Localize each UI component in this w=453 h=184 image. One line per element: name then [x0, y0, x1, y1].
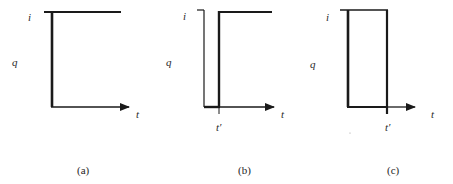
- panel-a-label-i: i: [28, 11, 31, 23]
- panel-a-label-q: q: [12, 56, 18, 68]
- panel-c-label-t-prime: t′: [385, 121, 391, 133]
- panel-b-label-t: t: [281, 108, 285, 120]
- panel-b-label-q: q: [166, 56, 172, 68]
- panel-c-caption: (c): [387, 164, 400, 177]
- panel-b-label-i: i: [183, 10, 186, 22]
- panel-a: i q t (a): [12, 11, 140, 177]
- panel-b-label-t-prime: t′: [216, 121, 222, 133]
- panel-b-caption: (b): [238, 164, 251, 177]
- figure-canvas: i q t (a) i q t t′ (b) i q t t′ (c): [0, 0, 453, 184]
- panel-c-label-i: i: [326, 11, 329, 23]
- panel-c-speck: [349, 132, 350, 133]
- panel-c: i q t t′ (c): [310, 10, 435, 177]
- panel-c-label-t: t: [431, 108, 435, 120]
- panel-b: i q t t′ (b): [166, 10, 285, 177]
- panel-a-label-t: t: [136, 108, 140, 120]
- panel-a-caption: (a): [77, 164, 90, 177]
- panel-c-label-q: q: [310, 58, 316, 70]
